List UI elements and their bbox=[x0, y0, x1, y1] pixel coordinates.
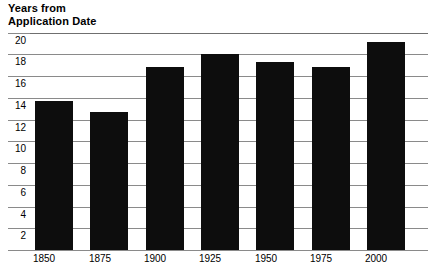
gutter-rule-2 bbox=[8, 228, 30, 229]
y-axis-tick-20: 20 bbox=[0, 35, 26, 46]
gutter-rule-10 bbox=[8, 141, 30, 142]
x-axis-tick-1900: 1900 bbox=[136, 253, 174, 265]
y-axis-tick-12: 12 bbox=[0, 122, 26, 133]
x-axis-tick-1925: 1925 bbox=[191, 253, 229, 265]
bar-1850 bbox=[35, 101, 73, 250]
gridline-20 bbox=[30, 33, 428, 34]
y-axis-tick-2: 2 bbox=[0, 230, 26, 241]
bar-1900 bbox=[146, 67, 184, 250]
gutter-rule-12 bbox=[8, 120, 30, 121]
y-axis-tick-16: 16 bbox=[0, 78, 26, 89]
y-axis-tick-18: 18 bbox=[0, 56, 26, 67]
x-axis-tick-1850: 1850 bbox=[25, 253, 63, 265]
x-axis-tick-1875: 1875 bbox=[81, 253, 119, 265]
y-axis-tick-4: 4 bbox=[0, 209, 26, 220]
bar-1925 bbox=[201, 54, 239, 250]
gutter-rule-8 bbox=[8, 163, 30, 164]
bar-2000 bbox=[367, 42, 405, 250]
gutter-rule-14 bbox=[8, 98, 30, 99]
gutter-rule-4 bbox=[8, 207, 30, 208]
y-axis-tick-14: 14 bbox=[0, 100, 26, 111]
bar-1950 bbox=[256, 62, 294, 250]
x-axis-tick-1975: 1975 bbox=[302, 253, 340, 265]
x-axis-tick-2000: 2000 bbox=[357, 253, 395, 265]
bar-1975 bbox=[312, 67, 350, 250]
plot-area bbox=[30, 33, 428, 250]
bar-chart-figure: Years from Application Date 20 18 16 14 … bbox=[0, 0, 436, 278]
gutter-rule-18 bbox=[8, 54, 30, 55]
y-axis-tick-6: 6 bbox=[0, 187, 26, 198]
x-axis-baseline bbox=[8, 250, 428, 251]
y-axis-tick-8: 8 bbox=[0, 165, 26, 176]
y-axis-tick-10: 10 bbox=[0, 143, 26, 154]
chart-title: Years from Application Date bbox=[8, 2, 268, 28]
bar-1875 bbox=[90, 112, 128, 250]
gutter-rule-16 bbox=[8, 76, 30, 77]
gutter-rule-6 bbox=[8, 185, 30, 186]
gutter-rule-20 bbox=[8, 33, 30, 34]
x-axis-tick-1950: 1950 bbox=[247, 253, 285, 265]
